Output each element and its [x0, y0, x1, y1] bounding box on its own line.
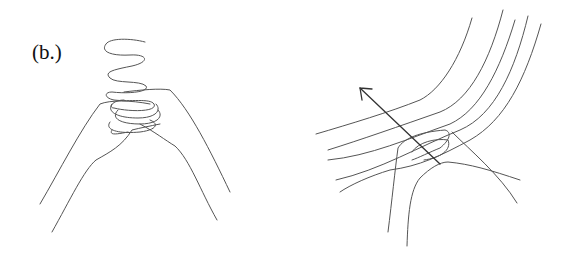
- right-panel-drawing: [316, 10, 541, 246]
- diagram-canvas: [0, 0, 570, 267]
- left-panel-drawing: [40, 39, 230, 232]
- direction-arrow: [360, 88, 440, 164]
